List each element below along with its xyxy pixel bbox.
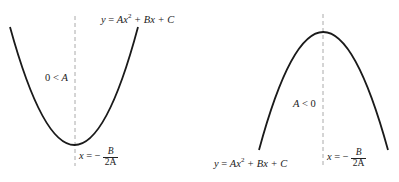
vertex-label-left: x = −B2A — [79, 147, 118, 167]
parabola-up — [10, 27, 138, 145]
equation-label-left: y = Ax2 + Bx + C — [101, 13, 174, 25]
condition-label-right: A < 0 — [293, 99, 316, 110]
vertex-label-right: x = −B2A — [327, 148, 366, 168]
equation-label-right: y = Ax2 + Bx + C — [214, 157, 287, 169]
condition-label-left: 0 < A — [45, 73, 68, 84]
